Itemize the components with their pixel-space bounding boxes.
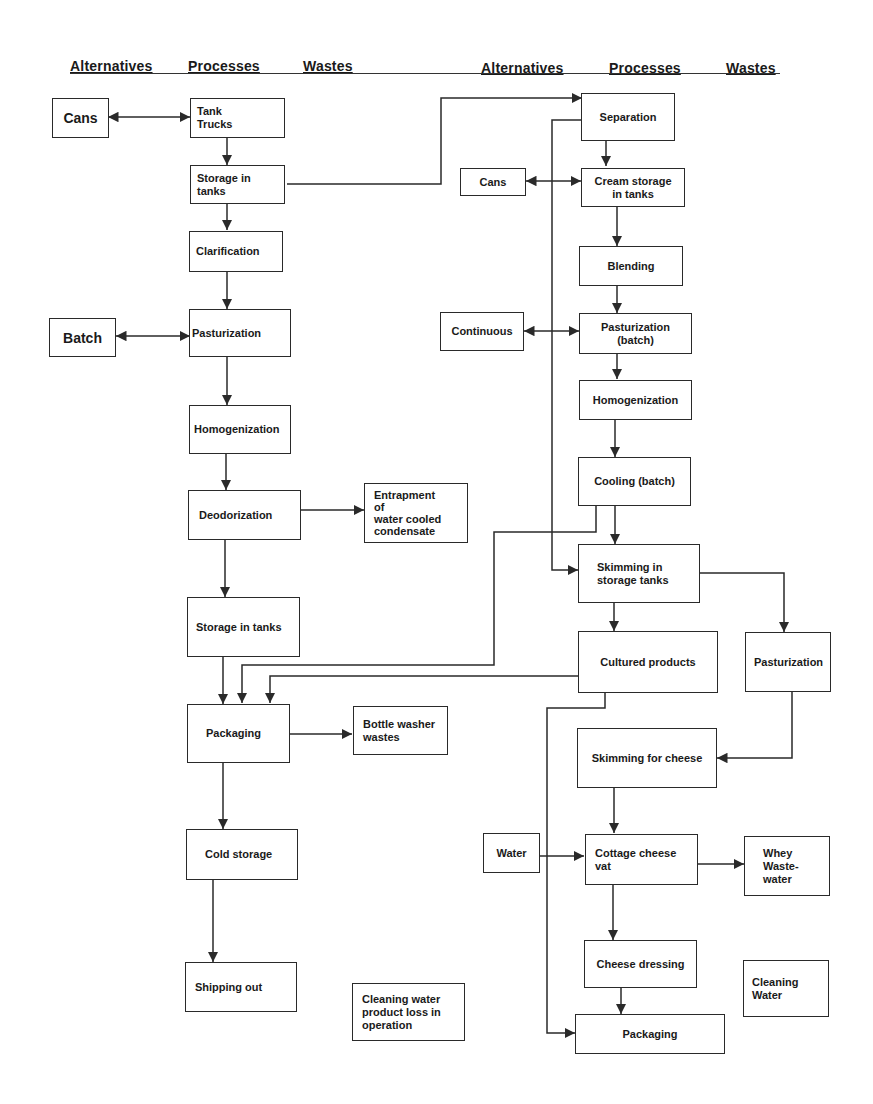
waste-bottle-washer: Bottle washer wastes	[353, 706, 448, 755]
process-deodorization: Deodorization	[188, 490, 301, 540]
process-cheese-dressing: Cheese dressing	[584, 940, 697, 988]
waste-entrapment: Entrapment of water cooled condensate	[364, 483, 468, 543]
waste-cleaning-water: Cleaning Water	[743, 960, 829, 1017]
process-cooling-batch: Cooling (batch)	[578, 457, 691, 506]
alt-batch: Batch	[49, 318, 116, 357]
process-blending: Blending	[579, 246, 683, 286]
process-cultured-products: Cultured products	[578, 631, 718, 693]
waste-whey-wastewater: Whey Waste- water	[744, 836, 830, 896]
process-cold-storage: Cold storage	[186, 829, 298, 880]
process-homogenization-right: Homogenization	[579, 380, 692, 420]
alt-cans-right: Cans	[460, 168, 526, 196]
process-skimming-cheese: Skimming for cheese	[577, 728, 717, 788]
alt-water: Water	[483, 833, 540, 873]
alt-continuous: Continuous	[440, 312, 524, 351]
process-storage-in-tanks-2: Storage in tanks	[187, 597, 300, 657]
process-cottage-cheese-vat: Cottage cheese vat	[585, 834, 698, 885]
process-packaging-right: Packaging	[575, 1014, 725, 1054]
process-separation: Separation	[581, 93, 675, 141]
process-pasturization: Pasturization	[189, 309, 291, 357]
waste-cleaning-water-loss: Cleaning water product loss in operation	[352, 983, 465, 1041]
process-pasturization-right: Pasturization	[745, 632, 831, 692]
process-pasturization-batch: Pasturization (batch)	[579, 313, 692, 354]
process-clarification: Clarification	[189, 231, 283, 272]
process-tank-trucks: Tank Trucks	[190, 98, 285, 138]
process-packaging: Packaging	[187, 704, 290, 763]
process-skimming-storage: Skimming in storage tanks	[578, 544, 700, 603]
process-storage-in-tanks: Storage in tanks	[190, 165, 285, 204]
process-shipping-out: Shipping out	[185, 962, 297, 1012]
alt-cans: Cans	[52, 98, 109, 138]
process-homogenization: Homogenization	[189, 405, 291, 454]
flow-connectors	[0, 0, 873, 1104]
process-cream-storage: Cream storage in tanks	[581, 168, 685, 207]
